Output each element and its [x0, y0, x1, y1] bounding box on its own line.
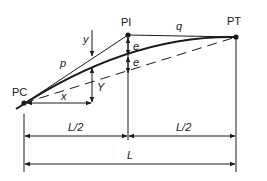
- pc-point: [21, 100, 26, 105]
- y-label: y: [82, 33, 90, 45]
- q-label: q: [176, 20, 183, 32]
- pt-point: [233, 34, 238, 39]
- pt-label: PT: [227, 15, 241, 27]
- vertical-curve-diagram: PC PI PT p q e e y Y x L/2 L/2 L: [0, 0, 267, 181]
- e-upper-label: e: [133, 40, 139, 52]
- Y-label: Y: [97, 81, 105, 93]
- e-lower-label: e: [133, 56, 139, 68]
- long-chord-dashed: [24, 37, 236, 103]
- pi-label: PI: [121, 16, 131, 28]
- right-half-label: L/2: [176, 121, 191, 133]
- x-label: x: [60, 90, 67, 102]
- total-length-label: L: [127, 149, 133, 161]
- pc-label: PC: [12, 86, 27, 98]
- left-half-label: L/2: [68, 121, 83, 133]
- p-label: p: [59, 57, 66, 69]
- vertical-curve: [16, 37, 236, 109]
- pi-point: [125, 32, 130, 37]
